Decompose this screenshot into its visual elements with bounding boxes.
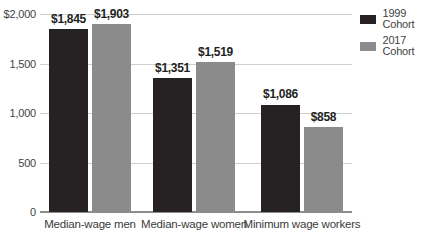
bar-1999-cohort (49, 29, 88, 212)
y-tick-label: $2,000 (0, 8, 36, 20)
y-tick-label: 500 (0, 157, 36, 169)
legend-item: 2017 Cohort (360, 35, 439, 57)
bar-value-label: $1,351 (138, 62, 208, 75)
legend-swatch-icon (360, 42, 376, 51)
legend: 1999 Cohort2017 Cohort (360, 8, 439, 57)
y-tick-label: 0 (0, 206, 36, 218)
legend-swatch-icon (360, 15, 376, 24)
legend-label: 2017 Cohort (382, 35, 439, 57)
category-label: Minimum wage workers (242, 218, 362, 231)
legend-label: 1999 Cohort (382, 8, 439, 30)
y-tick-label: 1,000 (0, 107, 36, 119)
bar-1999-cohort (153, 78, 192, 212)
bar-value-label: $1,903 (77, 8, 147, 21)
bar-value-label: $858 (289, 111, 359, 124)
y-tick-label: 1,500 (0, 58, 36, 70)
legend-item: 1999 Cohort (360, 8, 439, 30)
bar-2017-cohort (304, 127, 343, 212)
bar-value-label: $1,086 (246, 88, 316, 101)
bar-value-label: $1,519 (181, 46, 251, 59)
category-label: Median-wage men (30, 218, 150, 231)
bar-2017-cohort (196, 62, 235, 212)
bar-chart: 05001,0001,500$2,000 Median-wage menMedi… (0, 0, 439, 238)
bar-2017-cohort (92, 24, 131, 212)
category-label: Median-wage women (134, 218, 254, 231)
